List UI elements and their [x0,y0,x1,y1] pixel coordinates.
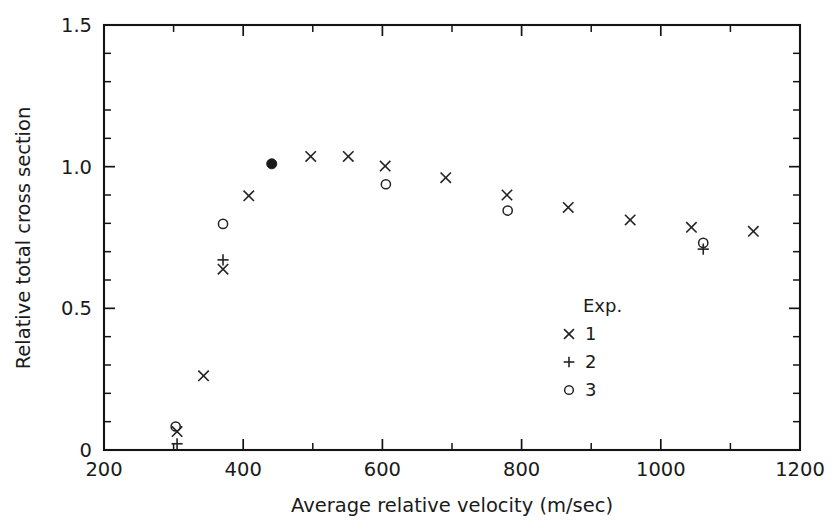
x-axis-title: Average relative velocity (m/sec) [291,494,613,517]
marker-cross-x [218,264,228,274]
marker-open-circle [218,219,227,228]
marker-plus [564,357,575,368]
marker-cross-x [686,222,696,232]
x-tick-label: 400 [225,458,262,481]
marker-cross-x [244,191,254,201]
marker-plus [217,254,228,265]
y-tick-label: 1.0 [61,156,92,179]
marker-open-circle [565,386,574,395]
marker-cross-x [306,151,316,161]
marker-cross-x [198,371,208,381]
legend-entry-label: 1 [585,323,596,344]
legend-entry-label: 3 [585,379,596,400]
marker-cross-x [563,202,573,212]
marker-open-circle [381,180,390,189]
y-tick-label: 0.5 [61,297,92,320]
legend-entry-2: 2 [564,351,597,372]
series-1 [172,151,759,437]
marker-cross-x [625,215,635,225]
y-axis-title: Relative total cross section [12,107,35,370]
marker-cross-x [502,190,512,200]
data-points [171,151,758,449]
legend-title: Exp. [583,295,622,316]
legend-entry-label: 2 [585,351,596,372]
legend-entry-1: 1 [564,323,596,344]
x-tick-label: 1000 [636,458,686,481]
marker-open-circle [503,206,512,215]
marker-cross-x [748,226,758,236]
series-2 [171,244,708,450]
plot-axes-rect [104,25,800,450]
figure-container: 2004006008001000120000.51.01.5 Exp.123 A… [0,0,835,530]
x-tick-label: 600 [364,458,401,481]
y-tick-label: 1.5 [61,14,92,37]
x-tick-label: 1200 [775,458,825,481]
y-tick-label: 0 [80,439,92,462]
clipped-caption-fragment [8,526,308,530]
series-peak [267,159,277,169]
axis-ticks [104,25,800,450]
legend-entry-3: 3 [565,379,597,400]
legend: Exp.123 [564,295,623,400]
plot-frame [104,25,800,450]
x-tick-label: 800 [503,458,540,481]
marker-filled-circle [267,159,277,169]
scatter-chart: 2004006008001000120000.51.01.5 Exp.123 A… [0,0,835,530]
marker-cross-x [343,151,353,161]
marker-cross-x [380,161,390,171]
marker-cross-x [441,173,451,183]
marker-cross-x [564,329,574,339]
axis-tick-labels: 2004006008001000120000.51.01.5 [61,14,825,481]
